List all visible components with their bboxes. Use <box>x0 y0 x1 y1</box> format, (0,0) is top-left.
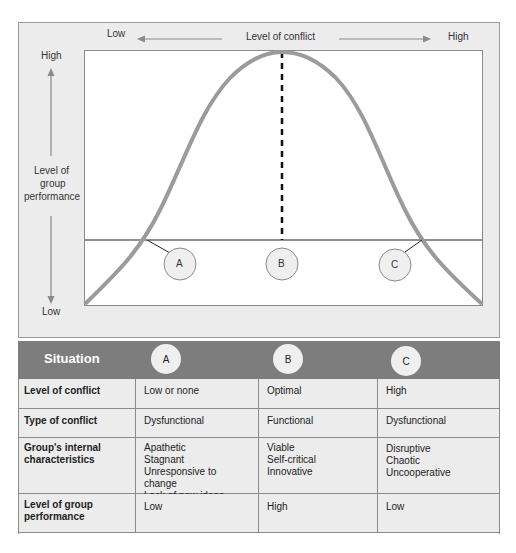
cell-a: Apathetic Stagnant Unresponsive to chang… <box>136 438 259 493</box>
cell-c: High <box>378 379 500 408</box>
cell-c: Disruptive Chaotic Uncooperative <box>378 438 500 493</box>
row-label: Level of conflict <box>18 379 136 408</box>
row-label-text: Level of group performance <box>24 499 114 523</box>
trait: Disruptive <box>386 443 492 455</box>
row-label: Type of conflict <box>18 409 136 437</box>
y-axis-arrow-down-icon <box>48 216 55 304</box>
y-axis-arrow-up-icon <box>48 68 55 156</box>
point-b-label: B <box>278 258 285 269</box>
row-label-text: Group's internal characteristics <box>24 442 104 466</box>
trait: Stagnant <box>144 454 250 466</box>
column-a-header: A <box>151 344 181 374</box>
table-row-type-of-conflict: Type of conflict Dysfunctional Functiona… <box>18 409 500 438</box>
cell-a: Low or none <box>136 379 259 408</box>
trait: Self-critical <box>267 454 369 466</box>
cell-c: Low <box>378 494 500 532</box>
point-a-label: A <box>176 258 183 269</box>
situation-header: Situation <box>44 351 100 366</box>
table-row-level-of-conflict: Level of conflict Low or none Optimal Hi… <box>18 379 500 409</box>
point-c-label: C <box>391 259 398 270</box>
cell-b: High <box>259 494 378 532</box>
x-axis-arrow-right-icon <box>339 36 431 43</box>
cell-a: Dysfunctional <box>136 409 259 437</box>
cell-b: Functional <box>259 409 378 437</box>
row-label: Group's internal characteristics <box>18 438 136 493</box>
cell-a: Low <box>136 494 259 532</box>
table-header: Situation A B C <box>18 341 500 379</box>
trait: Unresponsive to change <box>144 466 250 490</box>
trait: Uncooperative <box>386 467 492 479</box>
trait: Innovative <box>267 466 369 478</box>
table-row-internal-characteristics: Group's internal characteristics Apathet… <box>18 438 500 494</box>
row-label: Level of group performance <box>18 494 136 532</box>
cell-b: Optimal <box>259 379 378 408</box>
trait: Apathetic <box>144 442 250 454</box>
trait: Chaotic <box>386 455 492 467</box>
cell-c: Dysfunctional <box>378 409 500 437</box>
cell-b: Viable Self-critical Innovative <box>259 438 378 493</box>
x-axis-arrow-left-icon <box>137 36 222 43</box>
column-c-header: C <box>391 346 421 376</box>
table-row-group-performance: Level of group performance Low High Low <box>18 494 500 533</box>
column-b-header: B <box>273 344 303 374</box>
trait: Viable <box>267 442 369 454</box>
